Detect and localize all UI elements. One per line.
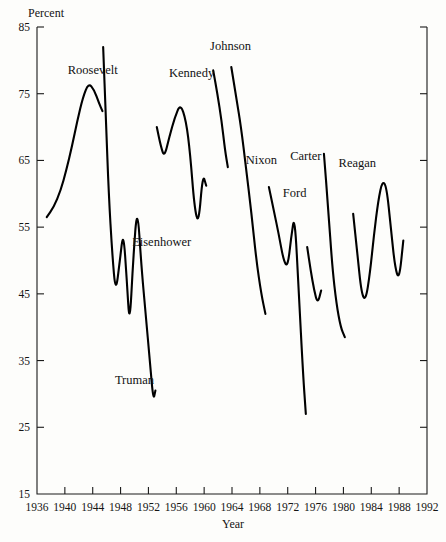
series-label-johnson: Johnson (210, 39, 252, 53)
axes-layer: 1525354555657585193619401944194819521956… (19, 21, 439, 513)
presidential-approval-line-chart: 1525354555657585193619401944194819521956… (0, 0, 446, 542)
series-line-kennedy (213, 70, 228, 167)
series-labels-layer: RooseveltTrumanEisenhowerKennedyJohnsonN… (68, 39, 377, 387)
y-axis-title: Percent (28, 6, 65, 20)
y-tick-label-45: 45 (19, 288, 31, 300)
series-line-roosevelt (47, 85, 103, 217)
series-label-ford: Ford (283, 186, 307, 200)
series-line-ford (307, 247, 321, 300)
series-label-roosevelt: Roosevelt (68, 63, 119, 77)
y-tick-label-15: 15 (19, 488, 31, 500)
x-tick-label-1940: 1940 (53, 501, 76, 513)
series-line-eisenhower (157, 107, 206, 218)
plot-frame (37, 27, 427, 494)
x-tick-label-1936: 1936 (26, 501, 49, 513)
x-tick-label-1992: 1992 (416, 501, 439, 513)
x-tick-label-1964: 1964 (221, 501, 244, 513)
y-tick-label-65: 65 (19, 154, 31, 166)
x-axis-title: Year (222, 517, 244, 531)
series-label-kennedy: Kennedy (169, 66, 215, 80)
x-tick-label-1976: 1976 (304, 501, 327, 513)
series-line-johnson (231, 67, 265, 314)
series-label-eisenhower: Eisenhower (132, 235, 192, 249)
series-line-truman (103, 47, 155, 397)
x-tick-label-1988: 1988 (388, 501, 411, 513)
x-tick-label-1948: 1948 (109, 501, 132, 513)
series-label-truman: Truman (115, 373, 155, 387)
series-line-carter (324, 154, 345, 337)
y-tick-label-75: 75 (19, 88, 31, 100)
y-tick-label-55: 55 (19, 221, 31, 233)
series-label-carter: Carter (290, 149, 322, 163)
x-tick-label-1980: 1980 (332, 501, 355, 513)
series-line-nixon (269, 187, 306, 414)
y-tick-label-35: 35 (19, 355, 31, 367)
x-tick-label-1956: 1956 (165, 501, 188, 513)
x-tick-label-1960: 1960 (193, 501, 216, 513)
series-label-reagan: Reagan (339, 156, 377, 170)
chart-page: 1525354555657585193619401944194819521956… (0, 0, 446, 542)
x-tick-label-1984: 1984 (360, 501, 383, 513)
series-line-reagan (353, 183, 403, 298)
x-tick-label-1972: 1972 (276, 501, 299, 513)
x-tick-label-1968: 1968 (248, 501, 271, 513)
series-label-nixon: Nixon (246, 153, 278, 167)
x-tick-label-1952: 1952 (137, 501, 160, 513)
y-tick-label-85: 85 (19, 21, 31, 33)
series-layer (47, 47, 404, 414)
x-tick-label-1944: 1944 (81, 501, 104, 513)
y-tick-label-25: 25 (19, 421, 31, 433)
